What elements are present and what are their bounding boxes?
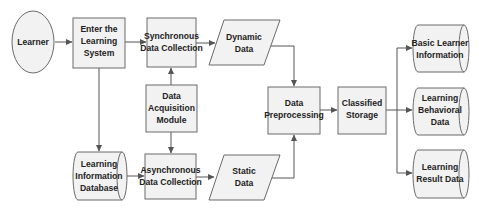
node-learner: Learner xyxy=(12,11,54,73)
node-asynchronous-data-collection: Asynchronous Data Collection xyxy=(139,154,202,199)
node-async-line-1: Asynchronous xyxy=(140,165,200,175)
node-data-preprocessing: Data Preprocessing xyxy=(264,87,324,134)
node-classified-line-2: Storage xyxy=(346,110,378,120)
node-behavioral-line-2: Behavioral xyxy=(418,105,462,115)
node-static-line-1: Static xyxy=(232,166,256,176)
node-result-line-2: Result Data xyxy=(416,174,463,184)
node-enter-learning-system: Enter the Learning System xyxy=(73,18,125,68)
node-learning-behavioral-data: Learning Behavioral Data xyxy=(413,88,469,135)
node-sync-line-1: Synchronous xyxy=(144,31,199,41)
node-acq-line-2: Acquisition xyxy=(148,103,195,113)
node-enter-system-line-3: System xyxy=(84,48,115,58)
node-enter-system-line-2: Learning xyxy=(81,36,117,46)
node-classified-line-1: Classified xyxy=(342,98,383,108)
node-dynamic-line-1: Dynamic xyxy=(226,32,262,42)
node-synchronous-data-collection: Synchronous Data Collection xyxy=(140,18,203,67)
node-acq-line-1: Data xyxy=(162,91,181,101)
node-static-data: Static Data xyxy=(209,155,280,200)
node-infodb-line-3: Database xyxy=(80,183,118,193)
node-acq-line-3: Module xyxy=(156,115,186,125)
node-basic-line-2: Information xyxy=(416,50,463,60)
node-static-line-2: Data xyxy=(235,178,254,188)
node-preproc-line-2: Preprocessing xyxy=(264,110,324,120)
node-infodb-line-2: Information xyxy=(75,171,122,181)
node-learner-label: Learner xyxy=(17,37,49,47)
node-dynamic-data: Dynamic Data xyxy=(209,20,280,65)
node-enter-system-line-1: Enter the xyxy=(80,24,117,34)
node-data-acquisition-module: Data Acquisition Module xyxy=(146,85,197,132)
node-behavioral-line-3: Data xyxy=(431,117,450,127)
node-infodb-line-1: Learning xyxy=(81,159,117,169)
node-basic-learner-information: Basic Learner Information xyxy=(412,25,470,72)
flowchart-canvas: Learner Enter the Learning System Synchr… xyxy=(0,0,479,214)
edge-dynamic-data-to-preprocessing xyxy=(268,46,294,86)
node-async-line-2: Data Collection xyxy=(139,177,202,187)
node-classified-storage: Classified Storage xyxy=(338,87,386,134)
node-behavioral-line-1: Learning xyxy=(422,93,458,103)
node-learning-information-database: Learning Information Database xyxy=(73,152,127,200)
node-learning-result-data: Learning Result Data xyxy=(413,150,469,198)
node-basic-line-1: Basic Learner xyxy=(412,38,470,48)
node-dynamic-line-2: Data xyxy=(235,44,254,54)
node-sync-line-2: Data Collection xyxy=(140,43,203,53)
node-preproc-line-1: Data xyxy=(285,98,304,108)
node-result-line-1: Learning xyxy=(422,162,458,172)
